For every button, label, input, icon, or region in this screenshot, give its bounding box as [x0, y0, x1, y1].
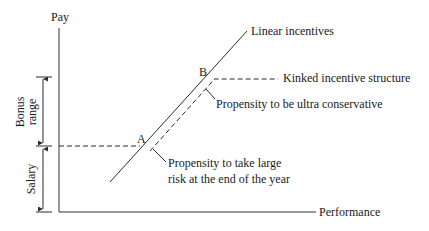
kinked-incentive-line — [150, 79, 278, 151]
large-risk-annotation-line1: Propensity to take large — [168, 156, 281, 170]
incentive-diagram: Pay Performance Bonus range Salary Linea… — [0, 0, 429, 231]
large-risk-leader — [153, 149, 166, 162]
ultra-conservative-annotation: Propensity to be ultra conservative — [216, 97, 383, 111]
bonus-range-bracket — [36, 77, 52, 212]
kinked-incentive-label: Kinked incentive structure — [283, 71, 410, 85]
point-b-label: B — [199, 65, 207, 79]
salary-label: Salary — [24, 164, 38, 195]
ultra-conservative-leader — [206, 89, 215, 99]
bonus-range-label-line2: range — [25, 99, 39, 126]
point-a-label: A — [137, 132, 146, 146]
linear-incentives-label: Linear incentives — [251, 24, 334, 38]
large-risk-annotation-line2: risk at the end of the year — [168, 172, 290, 186]
x-axis-label: Performance — [319, 205, 380, 219]
y-axis-label: Pay — [51, 10, 69, 24]
